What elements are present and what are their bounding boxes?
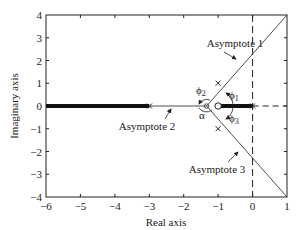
phi2-arc <box>199 99 210 104</box>
y-tick-label: 3 <box>37 32 43 44</box>
y-tick-label: −1 <box>30 123 42 135</box>
y-tick-label: 0 <box>37 100 43 112</box>
y-tick-label: −2 <box>30 146 42 158</box>
x-tick-label: −4 <box>109 200 121 212</box>
phi2-label: ϕ2 <box>196 84 206 98</box>
x-tick-label: 0 <box>250 200 256 212</box>
x-tick-label: 1 <box>284 200 290 212</box>
phi1-label: ϕ1 <box>229 89 239 103</box>
x-tick-label: −5 <box>75 200 87 212</box>
asymptote-2-label: Asymptote 2 <box>119 120 176 132</box>
x-tick-label: −3 <box>143 200 155 212</box>
alpha-label: α <box>199 109 205 121</box>
pole-icon <box>216 126 221 131</box>
pole-icon <box>216 81 221 86</box>
x-tick-labels: −6 −5 −4 −3 −2 −1 0 1 <box>40 200 290 212</box>
y-tick-label: 1 <box>37 77 43 89</box>
y-tick-label: 2 <box>37 55 43 67</box>
asymptote-3-label: Asymptote 3 <box>189 163 246 175</box>
asymptote-3-line <box>207 106 287 197</box>
y-axis-label: Imaginary axis <box>8 73 20 139</box>
y-tick-label: 4 <box>37 9 43 21</box>
x-tick-label: −1 <box>212 200 224 212</box>
asymptote-1-line <box>207 15 287 106</box>
asymptote-1-label: Asymptote 1 <box>207 37 264 49</box>
phi3-label: ϕ3 <box>229 112 239 126</box>
y-tick-label: −3 <box>30 168 42 180</box>
zero-icon <box>215 103 221 109</box>
x-tick-label: −2 <box>178 200 190 212</box>
asymptote-2-arrow <box>165 109 171 119</box>
asymptote-3-arrow <box>228 152 238 162</box>
root-locus-chart: −6 −5 −4 −3 −2 −1 0 1 4 3 2 1 0 −1 −2 −3… <box>0 0 302 230</box>
y-tick-label: −4 <box>30 191 42 203</box>
asymptote-1-arrow <box>224 52 236 59</box>
x-axis-label: Real axis <box>146 216 187 228</box>
y-tick-labels: 4 3 2 1 0 −1 −2 −3 −4 <box>30 9 42 203</box>
